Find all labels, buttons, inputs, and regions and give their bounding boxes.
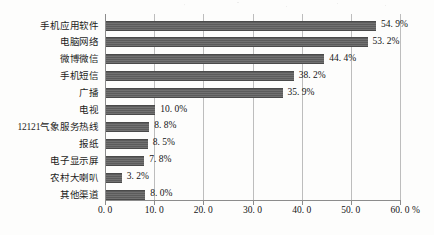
- x-tick-label: 10. 0: [145, 205, 164, 215]
- bar-row: 12121气象服务热线8. 8%: [0, 117, 434, 134]
- bar-row: 手机短信38. 2%: [0, 67, 434, 84]
- bar: [106, 54, 324, 64]
- value-label: 7. 8%: [149, 154, 171, 164]
- bar: [106, 37, 368, 47]
- bar-row: 其他渠道8. 0%: [0, 185, 434, 202]
- category-label: 报纸: [0, 134, 99, 151]
- value-label: 10. 0%: [160, 104, 187, 114]
- value-label: 8. 0%: [150, 188, 172, 198]
- bar: [106, 190, 145, 200]
- x-tick-label: 40. 0: [292, 205, 311, 215]
- bar-row: 报纸8. 5%: [0, 134, 434, 151]
- category-label: 电子显示屏: [0, 151, 99, 168]
- bar-row: 农村大喇叭3. 2%: [0, 168, 434, 185]
- x-tick-label: 0. 0: [98, 205, 112, 215]
- bar-row: 手机应用软件54. 9%: [0, 16, 434, 33]
- category-label: 手机应用软件: [0, 16, 99, 33]
- value-label: 53. 2%: [373, 36, 400, 46]
- value-label: 8. 5%: [153, 137, 175, 147]
- category-label: 广播: [0, 84, 99, 101]
- bar: [106, 105, 155, 115]
- category-label: 手机短信: [0, 67, 99, 84]
- bar: [106, 156, 144, 166]
- bar-row: 电视10. 0%: [0, 101, 434, 118]
- x-tick-label: 50. 0: [341, 205, 360, 215]
- bar: [106, 139, 148, 149]
- category-label: 微博微信: [0, 50, 99, 67]
- category-label: 农村大喇叭: [0, 168, 99, 185]
- bar-row: 微博微信44. 4%: [0, 50, 434, 67]
- x-axis-unit-label: %: [412, 205, 420, 215]
- bar-chart: 手机应用软件54. 9%电脑网络53. 2%微博微信44. 4%手机短信38. …: [0, 0, 434, 235]
- value-label: 38. 2%: [299, 70, 326, 80]
- bar: [106, 71, 294, 81]
- category-label: 12121气象服务热线: [0, 117, 99, 134]
- bar: [106, 21, 376, 31]
- value-label: 3. 2%: [127, 171, 149, 181]
- bar: [106, 88, 283, 98]
- bar: [106, 173, 122, 183]
- category-label: 电视: [0, 101, 99, 118]
- value-label: 44. 4%: [329, 53, 356, 63]
- bar-row: 广播35. 9%: [0, 84, 434, 101]
- value-label: 8. 8%: [154, 120, 176, 130]
- bar: [106, 122, 149, 132]
- category-label: 电脑网络: [0, 33, 99, 50]
- x-tick-label: 60. 0: [391, 205, 410, 215]
- bar-row: 电子显示屏7. 8%: [0, 151, 434, 168]
- category-label: 其他渠道: [0, 185, 99, 202]
- bar-row: 电脑网络53. 2%: [0, 33, 434, 50]
- scan-artifact: [150, 0, 434, 9]
- value-label: 35. 9%: [288, 87, 315, 97]
- x-tick-label: 20. 0: [194, 205, 213, 215]
- value-label: 54. 9%: [381, 19, 408, 29]
- x-tick-label: 30. 0: [243, 205, 262, 215]
